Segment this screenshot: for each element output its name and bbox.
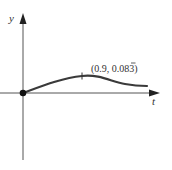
x-axis-label: t	[152, 95, 156, 107]
origin-point	[20, 90, 27, 97]
curve	[23, 76, 147, 93]
max-point-label: (0.9, 0.083)	[91, 63, 138, 75]
max-point-label-prefix: (0.9, 0.08	[91, 63, 129, 75]
y-axis-arrow-icon	[20, 13, 27, 24]
y-axis-label: y	[8, 12, 14, 24]
chart-canvas: y t (0.9, 0.083)	[0, 0, 172, 170]
max-point-label-suffix: )	[134, 63, 137, 75]
